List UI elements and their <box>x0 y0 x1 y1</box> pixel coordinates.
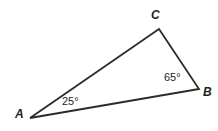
triangle-figure: A B C 25° 65° <box>0 0 218 131</box>
angle-label-b: 65° <box>164 72 181 83</box>
triangle-drawing <box>0 0 218 131</box>
vertex-label-a: A <box>15 108 24 120</box>
angle-label-a: 25° <box>62 96 79 107</box>
vertex-label-c: C <box>151 9 160 21</box>
vertex-label-b: B <box>203 86 212 98</box>
